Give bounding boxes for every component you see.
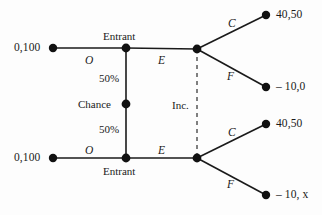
node-terminal-fight-top	[262, 83, 270, 91]
payoff-out-bottom: 0,100	[14, 152, 40, 164]
probability-bottom: 50%	[99, 124, 119, 135]
action-label-accommodate-bottom: C	[228, 127, 236, 139]
game-tree-diagram: 0,100 0,100 40,50 – 10,0 40,50 – 10, x E…	[0, 0, 322, 215]
action-label-fight-top: F	[227, 71, 234, 83]
tree-graphics	[0, 0, 322, 215]
payoff-accommodate-bottom: 40,50	[276, 118, 302, 130]
probability-top: 50%	[99, 73, 119, 84]
node-terminal-fight-bottom	[262, 191, 270, 199]
action-label-accommodate-top: C	[228, 18, 236, 30]
payoff-accommodate-top: 40,50	[276, 9, 302, 21]
payoff-fight-bottom: – 10, x	[276, 189, 308, 201]
player-label-incumbent: Inc.	[172, 100, 189, 111]
node-entrant-top	[122, 44, 131, 53]
payoff-fight-top: – 10,0	[276, 81, 305, 93]
node-incumbent-top	[193, 45, 202, 54]
action-label-out-bottom: O	[85, 145, 93, 157]
action-label-out-top: O	[85, 55, 93, 67]
node-terminal-out-top	[49, 44, 57, 52]
node-incumbent-bottom	[193, 154, 202, 163]
node-chance	[122, 100, 131, 109]
node-terminal-accommodate-top	[262, 11, 270, 19]
node-terminal-out-bottom	[49, 154, 57, 162]
player-label-entrant-top: Entrant	[103, 31, 135, 42]
node-entrant-bottom	[122, 154, 131, 163]
edge-enter-top	[126, 48, 197, 49]
action-label-enter-bottom: E	[158, 145, 165, 157]
action-label-enter-top: E	[158, 55, 165, 67]
node-terminal-accommodate-bottom	[262, 120, 270, 128]
player-label-entrant-bottom: Entrant	[103, 166, 135, 177]
payoff-out-top: 0,100	[14, 42, 40, 54]
action-label-fight-bottom: F	[227, 179, 234, 191]
player-label-chance: Chance	[78, 99, 111, 110]
